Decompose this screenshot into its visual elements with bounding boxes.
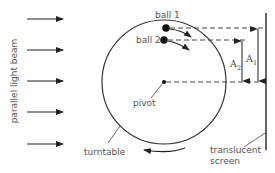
turntable-leader-line: [108, 126, 120, 143]
pivot-leader-line: [151, 83, 163, 98]
ball2-motion-arrow-icon: [168, 41, 189, 50]
amplitude-a1-label: A1: [245, 53, 257, 67]
diagram: parallel light beam ball 1 ball 2 pivot …: [0, 0, 275, 173]
turntable-label: turntable: [84, 147, 126, 157]
screen-label-line2: screen: [210, 156, 240, 166]
diagram-svg: parallel light beam ball 1 ball 2 pivot …: [0, 0, 275, 173]
rotation-arrow-icon: [144, 148, 185, 152]
pivot-label: pivot: [133, 98, 156, 108]
ball-2: [160, 36, 168, 44]
beam-label: parallel light beam: [9, 39, 19, 124]
ball2-label: ball 2: [136, 35, 161, 45]
light-beam-arrows: [27, 19, 63, 144]
ball1-motion-arrow-icon: [170, 29, 191, 37]
ball1-label: ball 1: [155, 10, 180, 20]
ball-1: [162, 24, 170, 32]
screen-label-line1: translucent: [210, 145, 262, 155]
amplitude-a2-label: A2: [229, 58, 241, 72]
